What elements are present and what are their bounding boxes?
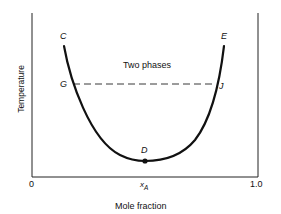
point-d-marker	[142, 158, 147, 163]
label-e: E	[221, 32, 227, 41]
x-tick-min: 0	[29, 180, 34, 189]
x-tick-max: 1.0	[250, 180, 263, 189]
x-marker-xa: xA	[140, 181, 148, 191]
phase-diagram: C E G J D Two phases 0 1.0 xA Mole fract…	[0, 0, 281, 214]
x-marker-subscript: A	[144, 184, 148, 191]
label-j: J	[219, 82, 224, 91]
label-d: D	[141, 146, 148, 155]
label-c: C	[60, 32, 67, 41]
x-axis-label: Mole fraction	[115, 202, 167, 211]
label-g: G	[60, 80, 67, 89]
region-label: Two phases	[123, 61, 171, 70]
y-axis-label: Temperature	[16, 59, 26, 119]
